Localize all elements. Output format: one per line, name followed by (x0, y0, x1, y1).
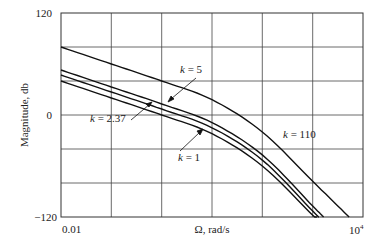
y-axis-label: Magnitude, db (18, 82, 30, 147)
curve-k-2-37 (61, 75, 319, 217)
bode-magnitude-chart: k = 5 k = 2.37 k = 1 k = 110 120 0 −120 … (0, 0, 384, 249)
label-k2-37: k = 2.37 (90, 112, 126, 124)
x-tick-0-01: 0.01 (62, 223, 81, 235)
label-k1: k = 1 (178, 151, 200, 163)
x-tick-10e4: 104 (349, 223, 364, 236)
y-tick-minus-120: −120 (34, 211, 57, 223)
y-tick-120: 120 (36, 7, 53, 19)
x-axis-label: Ω, rad/s (194, 223, 229, 235)
label-k110: k = 110 (283, 128, 316, 140)
label-k5: k = 5 (180, 63, 203, 75)
y-tick-0: 0 (47, 109, 53, 121)
